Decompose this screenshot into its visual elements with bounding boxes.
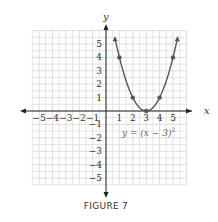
- svg-text:5: 5: [170, 113, 176, 123]
- svg-text:5: 5: [96, 39, 102, 49]
- data-point: [131, 95, 135, 99]
- svg-text:1: 1: [117, 113, 123, 123]
- svg-text:−4: −4: [46, 113, 60, 123]
- svg-text:−2: −2: [89, 133, 102, 143]
- svg-text:3: 3: [96, 66, 102, 76]
- svg-text:3: 3: [143, 113, 149, 123]
- svg-text:2: 2: [96, 79, 102, 89]
- data-point: [117, 55, 121, 59]
- parabola-chart: −5−4−3−2−11234554321−1−2−3−4−5 x y y = (…: [0, 0, 218, 222]
- data-point: [144, 109, 148, 113]
- svg-text:−3: −3: [89, 146, 103, 156]
- svg-text:−1: −1: [89, 119, 102, 129]
- y-axis-label: y: [102, 11, 109, 22]
- x-axis-label: x: [204, 105, 210, 116]
- grid: [32, 31, 186, 185]
- svg-text:−5: −5: [32, 113, 46, 123]
- svg-text:4: 4: [96, 52, 102, 62]
- figure-caption: FIGURE 7: [0, 201, 212, 211]
- svg-text:1: 1: [96, 93, 102, 103]
- svg-text:−3: −3: [59, 113, 73, 123]
- svg-text:2: 2: [130, 113, 136, 123]
- svg-text:−2: −2: [73, 113, 86, 123]
- svg-text:−5: −5: [89, 173, 103, 183]
- data-point: [171, 55, 175, 59]
- equation-label: y = (x − 3)2: [121, 126, 175, 138]
- svg-text:4: 4: [157, 113, 163, 123]
- data-point: [157, 95, 161, 99]
- svg-text:−4: −4: [89, 160, 103, 170]
